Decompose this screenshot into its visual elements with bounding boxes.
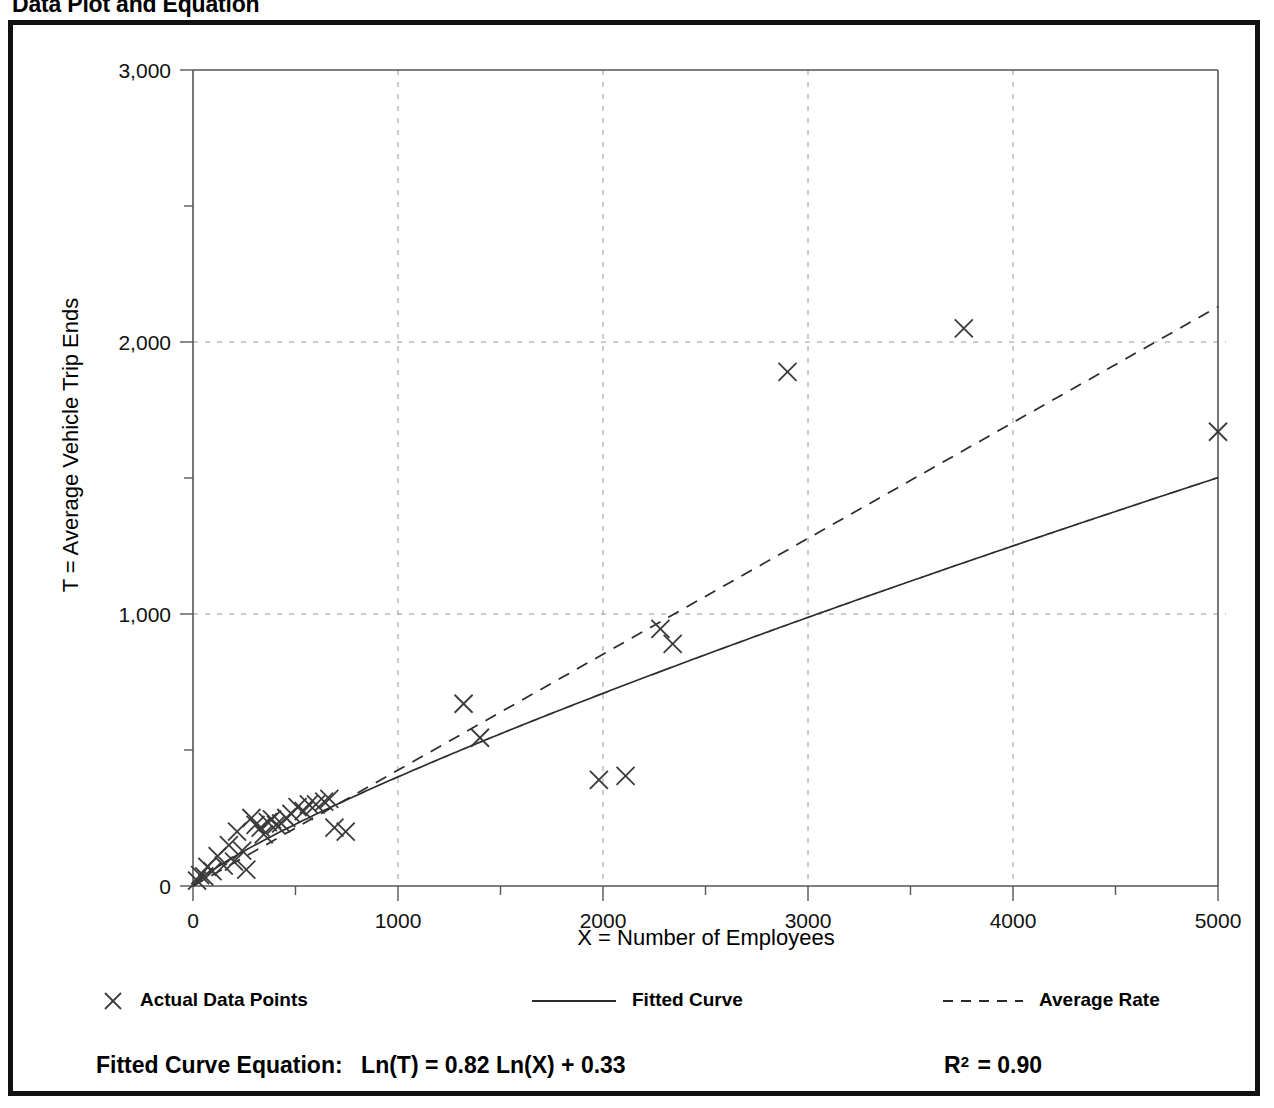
y-axis-tick-label: 2,000 — [118, 331, 171, 354]
legend-item-average-rate: Average Rate — [941, 986, 1160, 1014]
data-point-marker — [237, 861, 255, 879]
data-point-marker — [955, 319, 973, 337]
data-point-marker — [664, 635, 682, 653]
x-marker-icon — [100, 987, 126, 1013]
data-points-group — [188, 319, 1227, 889]
data-point-marker — [779, 363, 797, 381]
equation-expression: Ln(T) = 0.82 Ln(X) + 0.33 — [361, 1052, 626, 1078]
legend-label-fitted-curve: Fitted Curve — [632, 989, 743, 1011]
dashed-line-icon — [941, 987, 1025, 1013]
r-squared-label: R — [944, 1052, 961, 1078]
axis-tick-labels: 01,0002,0003,000010002000300040005000 — [118, 59, 1241, 932]
x-axis-title: X = Number of Employees — [193, 925, 1219, 951]
fitted-curve-equation: Fitted Curve Equation: Ln(T) = 0.82 Ln(X… — [96, 1052, 626, 1079]
data-point-marker — [455, 695, 473, 713]
data-point-marker — [617, 767, 635, 785]
fitted-curve-line — [193, 478, 1218, 886]
y-axis-tick-label: 1,000 — [118, 603, 171, 626]
y-axis-title: T = Average Vehicle Trip Ends — [58, 185, 84, 705]
legend-item-fitted-curve: Fitted Curve — [530, 986, 743, 1014]
legend-label-average-rate: Average Rate — [1039, 989, 1160, 1011]
data-point-marker — [320, 790, 338, 808]
y-axis-tick-label: 0 — [159, 875, 171, 898]
data-point-marker — [471, 729, 489, 747]
data-point-marker — [233, 842, 251, 860]
r-squared-value: = 0.90 — [977, 1052, 1042, 1078]
legend-item-actual-data-points: Actual Data Points — [100, 986, 308, 1014]
axes-group — [193, 70, 1218, 886]
axis-ticks-group — [180, 70, 1218, 901]
legend-label-actual-data-points: Actual Data Points — [140, 989, 308, 1011]
fitted-curve-path — [193, 478, 1218, 886]
solid-line-icon — [530, 987, 618, 1013]
gridlines-group — [193, 70, 1226, 886]
data-point-marker — [590, 771, 608, 789]
y-axis-tick-label: 3,000 — [118, 59, 171, 82]
r-squared-annotation: R2 = 0.90 — [944, 1052, 1042, 1079]
equation-label: Fitted Curve Equation: — [96, 1052, 343, 1078]
data-point-marker — [289, 798, 307, 816]
data-point-marker — [247, 816, 265, 834]
r-squared-exponent: 2 — [961, 1053, 969, 1070]
